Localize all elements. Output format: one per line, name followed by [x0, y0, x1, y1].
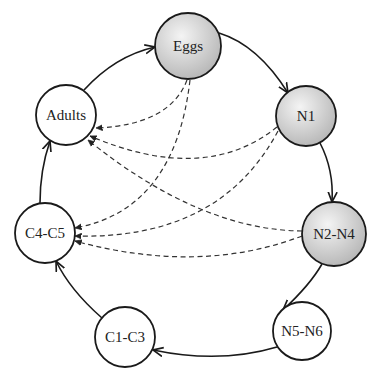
dashed-eggs-to-adults	[96, 80, 187, 128]
node-label-adults: Adults	[46, 107, 86, 123]
node-c4c5: C4-C5	[15, 203, 75, 263]
node-adults: Adults	[36, 85, 96, 145]
node-label-n1: N1	[297, 108, 315, 124]
edge-adults-to-eggs	[84, 47, 155, 90]
edge-n1-to-n2n4	[320, 143, 332, 202]
node-label-n2n4: N2-N4	[313, 226, 355, 242]
node-label-c4c5: C4-C5	[25, 225, 65, 241]
edge-eggs-to-n1	[219, 33, 288, 93]
edge-n5n6-to-c1c3	[153, 347, 277, 356]
dashed-edges	[75, 80, 302, 257]
dashed-n2n4-to-c4c5	[75, 236, 302, 257]
dashed-n1-to-c4c5	[75, 131, 278, 236]
node-n2n4: N2-N4	[302, 202, 366, 266]
node-n5n6: N5-N6	[273, 302, 331, 360]
node-eggs: Eggs	[155, 13, 221, 79]
node-label-n5n6: N5-N6	[281, 323, 323, 339]
edge-c4c5-to-adults	[40, 141, 50, 203]
node-n1: N1	[276, 86, 336, 146]
life-cycle-diagram: Eggs N1 N2-N4 N5-N6 C1-C3 C4-C5 Adults	[0, 0, 367, 377]
dashed-n1-to-adults	[90, 127, 277, 158]
dashed-n2n4-to-adults	[88, 140, 302, 231]
node-c1c3: C1-C3	[95, 307, 155, 367]
edge-c1c3-to-c4c5	[56, 261, 102, 318]
node-label-c1c3: C1-C3	[105, 329, 145, 345]
node-label-eggs: Eggs	[173, 38, 203, 54]
